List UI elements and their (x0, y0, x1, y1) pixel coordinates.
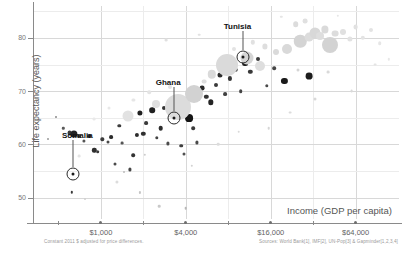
plot-area: SomaliaGhanaTunisia (33, 6, 399, 219)
gridline-horizontal-minor (33, 171, 399, 172)
data-point (314, 98, 317, 101)
data-point (303, 19, 308, 24)
data-point (138, 110, 143, 115)
data-point (361, 36, 365, 40)
data-point (78, 155, 81, 158)
data-point (248, 70, 252, 74)
data-point (113, 162, 116, 165)
x-tick-mark-minor (58, 221, 59, 225)
footnote-left: Constant 2011 $ adjusted for price diffe… (44, 239, 144, 244)
annotation-label-somalia: Somalia (62, 131, 93, 140)
data-point (306, 73, 313, 80)
data-point (118, 124, 121, 127)
data-point (273, 49, 279, 55)
data-point (337, 14, 339, 16)
data-point (144, 121, 148, 125)
data-point (132, 98, 135, 101)
data-point (106, 140, 109, 143)
y-axis-title: Life expectancy (years) (31, 41, 41, 161)
data-point (55, 116, 57, 118)
data-point (47, 138, 49, 140)
annotation-label-tunisia: Tunisia (224, 22, 251, 31)
footnote-right: Sources: World Bank[1], IMF[2], UN-Pop[3… (259, 239, 398, 244)
data-point (289, 111, 292, 114)
data-point (191, 127, 195, 131)
data-point (282, 44, 292, 54)
data-point (84, 198, 86, 200)
data-point (297, 68, 300, 71)
data-point (316, 32, 324, 40)
gridline-horizontal-minor (33, 11, 399, 12)
data-point (340, 29, 346, 35)
data-point (207, 70, 215, 78)
data-point (121, 141, 124, 144)
data-point (165, 39, 168, 42)
data-point (332, 30, 339, 37)
data-point (228, 76, 232, 80)
x-tick-label: $4,000 (174, 228, 197, 237)
data-point (322, 26, 329, 33)
data-point (158, 205, 161, 208)
x-axis-line (27, 223, 402, 224)
data-point (185, 207, 188, 210)
data-point (374, 63, 377, 66)
annotation-leader-line (174, 87, 175, 111)
data-point (183, 153, 186, 156)
x-tick-mark-minor (313, 221, 314, 225)
data-point (123, 171, 125, 173)
data-point (208, 100, 213, 105)
data-point (369, 28, 373, 32)
data-point (214, 83, 218, 87)
data-point (115, 180, 118, 183)
data-point (322, 37, 338, 53)
data-point (265, 84, 268, 87)
data-point (109, 135, 113, 139)
data-point (237, 130, 240, 133)
data-point (198, 33, 201, 36)
data-point (327, 71, 330, 74)
data-point (96, 150, 100, 154)
x-axis-title: Income (GDP per capita) (287, 205, 392, 216)
annotation-marker-dot (242, 55, 245, 58)
data-point (139, 191, 141, 193)
data-point (70, 191, 72, 193)
data-point (149, 108, 155, 114)
data-point (347, 36, 352, 41)
data-point (204, 94, 208, 98)
data-point (217, 143, 220, 146)
data-point (255, 61, 265, 71)
data-point (239, 89, 243, 93)
gridline-horizontal (33, 198, 399, 199)
data-point (216, 54, 238, 76)
data-point (147, 90, 151, 94)
data-point (100, 137, 103, 140)
data-point (135, 133, 139, 137)
data-point (190, 165, 192, 167)
data-point (251, 40, 255, 44)
data-point (353, 25, 358, 30)
annotation-label-ghana: Ghana (156, 78, 181, 87)
y-tick-label: 60 (6, 141, 26, 148)
data-point (122, 110, 133, 121)
data-point (93, 117, 96, 120)
data-point (152, 100, 160, 108)
y-tick-mark (28, 38, 33, 39)
data-point (185, 85, 203, 103)
data-point (141, 132, 145, 136)
data-point (262, 44, 267, 49)
y-tick-mark (28, 198, 33, 199)
data-point (62, 127, 64, 129)
x-tick-label: $64,000 (342, 228, 369, 237)
data-point (350, 90, 353, 93)
data-point (223, 92, 227, 96)
x-tick-label: $1,000 (89, 228, 112, 237)
data-point (273, 67, 277, 71)
gridline-horizontal (33, 38, 399, 39)
data-point (108, 107, 111, 110)
data-point (155, 136, 158, 139)
data-point (378, 41, 382, 45)
data-point (195, 141, 198, 144)
x-tick-mark-minor (228, 221, 229, 225)
y-tick-label: 50 (6, 194, 26, 201)
y-tick-label: 80 (6, 34, 26, 41)
